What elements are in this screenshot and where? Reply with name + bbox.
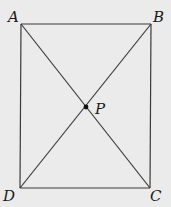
label-b: B <box>152 8 164 26</box>
label-p: P <box>94 100 106 118</box>
label-a: A <box>6 8 19 26</box>
rectangle-diagram: A B C D P <box>0 0 171 207</box>
side-bc <box>150 24 151 188</box>
intersection-point-p <box>84 105 89 110</box>
label-d: D <box>2 187 15 205</box>
label-c: C <box>150 187 162 205</box>
side-da <box>20 24 21 188</box>
